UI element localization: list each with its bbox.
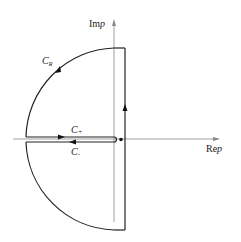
lower-cut-label: C- xyxy=(71,146,81,158)
arc-label: CR xyxy=(42,55,53,67)
upper-cut-label-sub: + xyxy=(78,128,83,136)
contour-diagram: Imp Rep CR C+ C- xyxy=(0,0,241,242)
lower-cut-label-sub: - xyxy=(78,150,81,158)
real-axis-arrowhead-icon xyxy=(213,137,220,141)
arc-contour-lower xyxy=(26,142,114,230)
lower-cut-arrow-icon xyxy=(69,140,76,145)
arc-contour-upper xyxy=(26,48,114,137)
branch-point-dot xyxy=(119,138,123,142)
imag-label-var: p xyxy=(99,18,105,29)
imag-label-prefix: Im xyxy=(89,18,100,29)
imag-axis-arrowhead-icon xyxy=(112,19,116,26)
real-label-var: p xyxy=(216,143,222,154)
arc-direction-arrow-icon xyxy=(55,66,61,73)
imag-axis-label: Imp xyxy=(89,18,105,29)
upper-cut-label: C+ xyxy=(71,124,83,136)
arc-label-sub: R xyxy=(48,61,53,67)
vertical-direction-arrow-icon xyxy=(123,104,128,111)
real-axis-label: Rep xyxy=(206,143,222,154)
real-label-prefix: Re xyxy=(206,143,218,154)
